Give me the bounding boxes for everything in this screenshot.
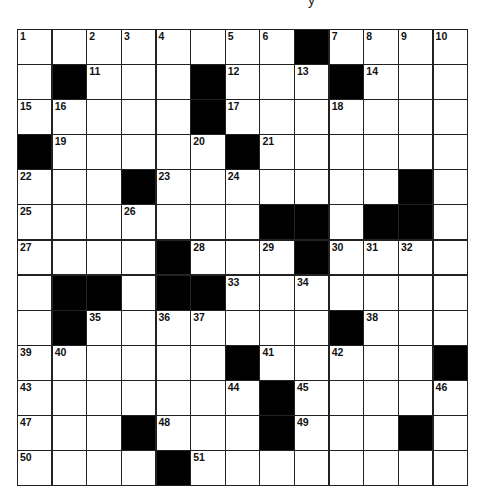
grid-cell[interactable] [260, 451, 293, 485]
grid-cell[interactable]: 36 [157, 311, 190, 345]
grid-cell[interactable] [157, 135, 190, 169]
grid-cell[interactable] [399, 381, 432, 415]
grid-cell[interactable] [330, 276, 363, 310]
grid-cell[interactable] [330, 416, 363, 450]
grid-cell[interactable] [191, 346, 224, 380]
grid-cell[interactable]: 5 [226, 30, 259, 64]
grid-cell[interactable] [87, 416, 120, 450]
grid-cell[interactable] [330, 381, 363, 415]
grid-cell[interactable]: 44 [226, 381, 259, 415]
grid-cell[interactable]: 42 [330, 346, 363, 380]
grid-cell[interactable]: 23 [157, 170, 190, 204]
grid-cell[interactable]: 26 [122, 205, 155, 239]
grid-cell[interactable] [260, 65, 293, 99]
grid-cell[interactable] [191, 416, 224, 450]
grid-cell[interactable]: 51 [191, 451, 224, 485]
grid-cell[interactable] [122, 241, 155, 275]
grid-cell[interactable]: 6 [260, 30, 293, 64]
grid-cell[interactable] [87, 346, 120, 380]
grid-cell[interactable] [260, 276, 293, 310]
grid-cell[interactable] [434, 100, 467, 134]
grid-cell[interactable] [399, 276, 432, 310]
grid-cell[interactable]: 43 [18, 381, 51, 415]
grid-cell[interactable] [364, 381, 397, 415]
grid-cell[interactable] [87, 451, 120, 485]
grid-cell[interactable] [191, 205, 224, 239]
grid-cell[interactable]: 49 [295, 416, 328, 450]
grid-cell[interactable] [191, 170, 224, 204]
grid-cell[interactable]: 28 [191, 241, 224, 275]
grid-cell[interactable]: 41 [260, 346, 293, 380]
grid-cell[interactable] [364, 100, 397, 134]
grid-cell[interactable]: 8 [364, 30, 397, 64]
grid-cell[interactable]: 9 [399, 30, 432, 64]
grid-cell[interactable] [434, 311, 467, 345]
grid-cell[interactable]: 46 [434, 381, 467, 415]
grid-cell[interactable] [157, 205, 190, 239]
grid-cell[interactable]: 21 [260, 135, 293, 169]
grid-cell[interactable]: 45 [295, 381, 328, 415]
grid-cell[interactable]: 48 [157, 416, 190, 450]
grid-cell[interactable] [226, 451, 259, 485]
grid-cell[interactable]: 34 [295, 276, 328, 310]
grid-cell[interactable] [53, 205, 86, 239]
grid-cell[interactable] [330, 205, 363, 239]
grid-cell[interactable] [53, 416, 86, 450]
grid-cell[interactable] [399, 451, 432, 485]
grid-cell[interactable] [157, 346, 190, 380]
grid-cell[interactable]: 18 [330, 100, 363, 134]
grid-cell[interactable] [364, 451, 397, 485]
grid-cell[interactable] [122, 346, 155, 380]
grid-cell[interactable] [295, 346, 328, 380]
grid-cell[interactable]: 7 [330, 30, 363, 64]
grid-cell[interactable] [18, 311, 51, 345]
grid-cell[interactable]: 32 [399, 241, 432, 275]
grid-cell[interactable]: 29 [260, 241, 293, 275]
grid-cell[interactable]: 10 [434, 30, 467, 64]
grid-cell[interactable] [122, 65, 155, 99]
grid-cell[interactable]: 50 [18, 451, 51, 485]
grid-cell[interactable]: 40 [53, 346, 86, 380]
grid-cell[interactable]: 39 [18, 346, 51, 380]
grid-cell[interactable] [434, 241, 467, 275]
grid-cell[interactable] [434, 276, 467, 310]
grid-cell[interactable] [260, 170, 293, 204]
grid-cell[interactable] [295, 100, 328, 134]
grid-cell[interactable] [87, 241, 120, 275]
grid-cell[interactable]: 35 [87, 311, 120, 345]
grid-cell[interactable] [53, 451, 86, 485]
grid-cell[interactable]: 30 [330, 241, 363, 275]
grid-cell[interactable] [260, 311, 293, 345]
grid-cell[interactable] [157, 65, 190, 99]
grid-cell[interactable]: 38 [364, 311, 397, 345]
grid-cell[interactable] [364, 276, 397, 310]
grid-cell[interactable] [87, 205, 120, 239]
grid-cell[interactable] [122, 451, 155, 485]
grid-cell[interactable] [191, 381, 224, 415]
grid-cell[interactable]: 33 [226, 276, 259, 310]
grid-cell[interactable] [87, 135, 120, 169]
grid-cell[interactable] [399, 65, 432, 99]
grid-cell[interactable] [330, 451, 363, 485]
grid-cell[interactable]: 13 [295, 65, 328, 99]
grid-cell[interactable]: 15 [18, 100, 51, 134]
grid-cell[interactable] [295, 311, 328, 345]
grid-cell[interactable] [295, 451, 328, 485]
grid-cell[interactable] [364, 135, 397, 169]
grid-cell[interactable] [295, 135, 328, 169]
grid-cell[interactable] [53, 170, 86, 204]
grid-cell[interactable] [295, 170, 328, 204]
grid-cell[interactable] [122, 100, 155, 134]
grid-cell[interactable] [434, 65, 467, 99]
grid-cell[interactable] [122, 135, 155, 169]
grid-cell[interactable] [53, 381, 86, 415]
grid-cell[interactable] [260, 100, 293, 134]
grid-cell[interactable] [87, 381, 120, 415]
grid-cell[interactable] [434, 170, 467, 204]
grid-cell[interactable] [226, 416, 259, 450]
grid-cell[interactable]: 24 [226, 170, 259, 204]
grid-cell[interactable]: 25 [18, 205, 51, 239]
grid-cell[interactable] [191, 30, 224, 64]
grid-cell[interactable]: 47 [18, 416, 51, 450]
grid-cell[interactable] [18, 276, 51, 310]
